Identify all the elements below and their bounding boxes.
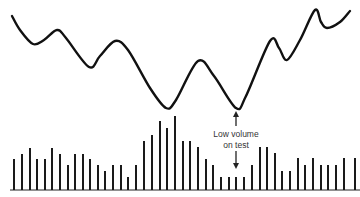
volume-bar — [13, 159, 15, 190]
volume-bar — [197, 147, 199, 190]
volume-bar — [51, 148, 53, 190]
volume-bar — [89, 159, 91, 190]
volume-bar — [251, 165, 253, 190]
volume-bar — [59, 154, 61, 190]
volume-bar — [327, 165, 329, 190]
volume-bar — [182, 141, 184, 190]
volume-bar — [21, 154, 23, 190]
volume-bar — [354, 158, 356, 190]
volume-bar — [135, 165, 137, 190]
annotation: Low volume on test — [213, 111, 259, 169]
volume-bar — [205, 159, 207, 190]
annotation-line1: Low volume — [213, 129, 259, 139]
volume-bar — [159, 121, 161, 190]
up-arrow-icon — [233, 111, 239, 117]
volume-bar — [281, 171, 283, 190]
volume-bar — [112, 165, 114, 190]
volume-bar — [212, 165, 214, 190]
volume-bar — [151, 135, 153, 190]
volume-bar — [189, 141, 191, 190]
volume-bar — [97, 165, 99, 190]
volume-chart: Low volume on test — [0, 0, 360, 197]
volume-bar — [127, 177, 129, 190]
volume-bar — [36, 159, 38, 190]
volume-bar — [320, 165, 322, 190]
volume-bar — [166, 128, 168, 190]
annotation-line2: on test — [223, 140, 249, 150]
volume-bar — [120, 165, 122, 190]
volume-bar — [297, 158, 299, 190]
volume-bar — [104, 171, 106, 190]
volume-bar — [335, 165, 337, 190]
volume-bar — [274, 153, 276, 190]
volume-bar — [220, 177, 222, 190]
volume-bar — [74, 154, 76, 190]
volume-bar — [243, 177, 245, 190]
volume-bar — [259, 147, 261, 190]
price-line — [12, 10, 350, 110]
volume-bar — [82, 154, 84, 190]
down-arrow-icon — [233, 163, 239, 169]
volume-bar — [289, 171, 291, 190]
volume-bar — [343, 158, 345, 190]
volume-bar — [29, 148, 31, 190]
volume-bar — [312, 158, 314, 190]
volume-bar — [143, 141, 145, 190]
volume-bar — [235, 177, 237, 190]
volume-bar — [304, 165, 306, 190]
volume-bar — [174, 116, 176, 190]
volume-bars — [13, 116, 356, 190]
volume-bar — [228, 177, 230, 190]
volume-bar — [266, 147, 268, 190]
volume-bar — [67, 165, 69, 190]
volume-bar — [44, 159, 46, 190]
